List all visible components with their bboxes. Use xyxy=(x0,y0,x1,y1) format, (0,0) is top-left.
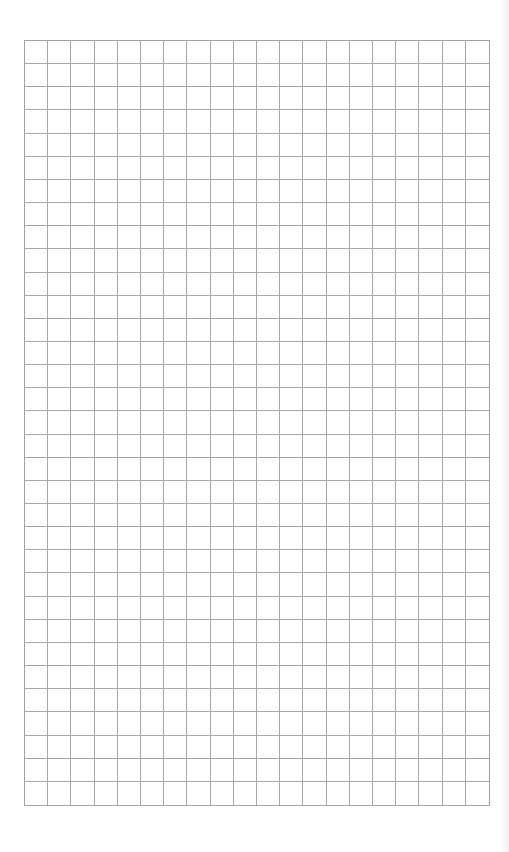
grid-cell xyxy=(466,41,489,64)
grid-cell xyxy=(443,782,466,805)
grid-cell xyxy=(234,550,257,573)
grid-cell xyxy=(280,273,303,296)
grid-cell xyxy=(234,157,257,180)
grid-cell xyxy=(234,342,257,365)
grid-cell xyxy=(187,388,210,411)
grid-cell xyxy=(466,249,489,272)
grid-cell xyxy=(466,643,489,666)
grid-cell xyxy=(187,435,210,458)
grid-cell xyxy=(71,458,94,481)
grid-cell xyxy=(118,203,141,226)
grid-cell xyxy=(48,620,71,643)
grid-cell xyxy=(303,41,326,64)
grid-cell xyxy=(419,273,442,296)
grid-cell xyxy=(164,110,187,133)
grid-cell xyxy=(71,527,94,550)
grid-cell xyxy=(118,712,141,735)
grid-cell xyxy=(466,435,489,458)
grid-cell xyxy=(48,504,71,527)
grid-cell xyxy=(25,110,48,133)
grid-cell xyxy=(25,666,48,689)
grid-cell xyxy=(118,273,141,296)
grid-cell xyxy=(48,226,71,249)
grid-cell xyxy=(396,666,419,689)
grid-cell xyxy=(373,458,396,481)
grid-cell xyxy=(303,643,326,666)
grid-cell xyxy=(71,249,94,272)
grid-cell xyxy=(234,435,257,458)
grid-cell xyxy=(466,527,489,550)
grid-cell xyxy=(234,666,257,689)
grid-cell xyxy=(164,573,187,596)
grid-cell xyxy=(419,226,442,249)
grid-cell xyxy=(443,759,466,782)
grid-cell xyxy=(303,249,326,272)
grid-cell xyxy=(419,87,442,110)
grid-cell xyxy=(118,411,141,434)
grid-cell xyxy=(71,365,94,388)
grid-cell xyxy=(95,620,118,643)
grid-cell xyxy=(396,41,419,64)
grid-cell xyxy=(187,319,210,342)
grid-cell xyxy=(25,736,48,759)
grid-cell xyxy=(141,666,164,689)
grid-cell xyxy=(303,87,326,110)
grid-cell xyxy=(141,712,164,735)
grid-cell xyxy=(419,110,442,133)
grid-cell xyxy=(71,597,94,620)
grid-cell xyxy=(280,134,303,157)
grid-cell xyxy=(466,110,489,133)
grid-cell xyxy=(141,64,164,87)
grid-cell xyxy=(164,273,187,296)
grid-cell xyxy=(280,573,303,596)
grid-cell xyxy=(164,550,187,573)
grid-cell xyxy=(234,41,257,64)
grid-cell xyxy=(419,458,442,481)
grid-cell xyxy=(141,273,164,296)
grid-cell xyxy=(211,435,234,458)
grid-cell xyxy=(71,388,94,411)
graph-paper-grid xyxy=(24,40,490,806)
grid-cell xyxy=(373,87,396,110)
grid-cell xyxy=(466,388,489,411)
grid-cell xyxy=(187,597,210,620)
grid-cell xyxy=(95,342,118,365)
grid-cell xyxy=(466,573,489,596)
grid-cell xyxy=(95,597,118,620)
grid-cell xyxy=(327,411,350,434)
grid-cell xyxy=(118,550,141,573)
grid-cell xyxy=(211,736,234,759)
grid-cell xyxy=(303,134,326,157)
grid-cell xyxy=(303,736,326,759)
grid-cell xyxy=(466,712,489,735)
grid-cell xyxy=(466,689,489,712)
grid-cell xyxy=(95,759,118,782)
grid-cell xyxy=(95,273,118,296)
grid-cell xyxy=(257,481,280,504)
grid-cell xyxy=(443,643,466,666)
grid-cell xyxy=(257,180,280,203)
grid-cell xyxy=(443,134,466,157)
grid-cell xyxy=(25,573,48,596)
grid-cell xyxy=(373,249,396,272)
grid-cell xyxy=(303,689,326,712)
grid-cell xyxy=(257,319,280,342)
grid-cell xyxy=(373,759,396,782)
grid-cell xyxy=(303,759,326,782)
grid-cell xyxy=(48,87,71,110)
grid-cell xyxy=(419,481,442,504)
grid-cell xyxy=(71,296,94,319)
grid-cell xyxy=(257,458,280,481)
grid-cell xyxy=(234,620,257,643)
grid-cell xyxy=(327,736,350,759)
grid-cell xyxy=(419,134,442,157)
grid-cell xyxy=(280,481,303,504)
grid-cell xyxy=(71,736,94,759)
grid-cell xyxy=(211,180,234,203)
grid-cell xyxy=(141,319,164,342)
grid-cell xyxy=(141,249,164,272)
grid-cell xyxy=(71,157,94,180)
grid-cell xyxy=(164,643,187,666)
grid-cell xyxy=(350,689,373,712)
grid-cell xyxy=(396,481,419,504)
